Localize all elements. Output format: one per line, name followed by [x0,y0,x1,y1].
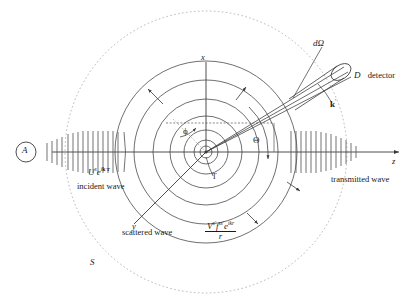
incident-exp-r: r [107,166,109,172]
incident-exponent: ik·r [101,166,110,172]
surface-label-S: S [90,258,95,267]
k-prime-prime: ′ [335,98,336,104]
scattered-e-sup: ikr [228,220,234,226]
target-label-T: T [212,173,217,181]
theta-label: Θ [253,136,260,145]
y-axis [134,152,206,224]
incident-wave-formula: Useik·r [88,168,110,177]
x-axis-label: x [201,53,205,62]
diagram-canvas [0,0,411,304]
detector-barrel [289,60,354,110]
scattered-denominator: r [205,232,236,241]
scatter-direction-arrows [148,87,300,224]
detector-symbol-D: D [354,70,361,80]
source-label-A: A [22,146,28,155]
scattering-diagram: A Useik·r incident wave transmitted wave… [0,0,411,304]
transmitted-wave-caption: transmitted wave [331,175,389,184]
z-axis-label: z [392,157,395,166]
scattered-fraction: Vs′fss′eikr r [205,222,236,241]
detector-caption: detector [368,70,395,80]
k-prime-label: k′ [330,100,336,109]
solid-angle-leader [293,47,322,98]
detector-group: D detector [354,71,395,80]
incident-wave-caption: incident wave [77,182,124,191]
solid-angle-label: dΩ [313,39,324,48]
detector-cone [206,67,351,152]
scattered-wave-formula: Vs′fss′eikr r [205,222,236,241]
phi-label: ϕ [183,127,188,136]
scattered-wave-caption: scattered wave [122,228,172,237]
target-point [204,150,207,153]
